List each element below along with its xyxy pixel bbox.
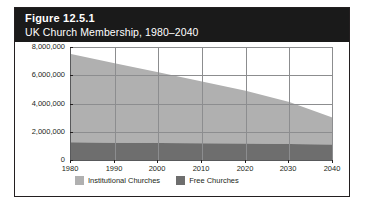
gridline-vertical: [115, 47, 116, 160]
y-axis-tick-label: 0: [61, 156, 65, 164]
chart-legend: Institutional ChurchesFree Churches: [75, 176, 239, 185]
plot-area: [70, 47, 333, 161]
x-axis-tick-mark: [332, 160, 333, 163]
plot-inner: [71, 47, 333, 160]
figure-title: UK Church Membership, 1980–2040: [25, 25, 349, 39]
x-axis-tick-mark: [157, 160, 158, 163]
gridline-vertical: [158, 47, 159, 160]
x-axis-tick-label: 1980: [55, 164, 85, 173]
y-axis-tick-mark: [70, 104, 73, 105]
x-axis-tick-mark: [114, 160, 115, 163]
x-axis-tick-mark: [201, 160, 202, 163]
legend-item: Free Churches: [176, 176, 239, 185]
y-axis-tick-label: 2,000,000: [32, 128, 65, 136]
x-axis-tick-label: 2010: [186, 164, 216, 173]
gridline-vertical: [332, 47, 333, 160]
y-axis-tick-label: 4,000,000: [32, 100, 65, 108]
y-axis-tick-label: 6,000,000: [32, 71, 65, 79]
figure-panel: Figure 12.5.1 UK Church Membership, 1980…: [14, 7, 350, 197]
legend-label: Institutional Churches: [88, 176, 160, 185]
y-axis-tick-label: 8,000,000: [32, 43, 65, 51]
figure-header: Figure 12.5.1 UK Church Membership, 1980…: [15, 8, 349, 42]
x-axis-tick-mark: [70, 160, 71, 163]
gridline-vertical: [246, 47, 247, 160]
legend-item: Institutional Churches: [75, 176, 160, 185]
figure-number: Figure 12.5.1: [25, 11, 349, 25]
chart-body: 02,000,0004,000,0006,000,0008,000,000 19…: [15, 42, 349, 196]
y-axis-tick-mark: [70, 132, 73, 133]
y-axis-tick-labels: 02,000,0004,000,0006,000,0008,000,000: [15, 47, 65, 160]
x-axis-tick-mark: [245, 160, 246, 163]
x-axis-tick-label: 1990: [99, 164, 129, 173]
x-axis-tick-label: 2030: [273, 164, 303, 173]
x-axis-tick-mark: [288, 160, 289, 163]
x-axis-tick-label: 2040: [317, 164, 347, 173]
y-axis-tick-mark: [70, 75, 73, 76]
gridline-vertical: [202, 47, 203, 160]
x-axis-tick-label: 2000: [142, 164, 172, 173]
x-axis-tick-label: 2020: [230, 164, 260, 173]
legend-label: Free Churches: [189, 176, 239, 185]
legend-swatch: [75, 176, 84, 185]
legend-swatch: [176, 176, 185, 185]
y-axis-tick-mark: [70, 47, 73, 48]
gridline-vertical: [289, 47, 290, 160]
